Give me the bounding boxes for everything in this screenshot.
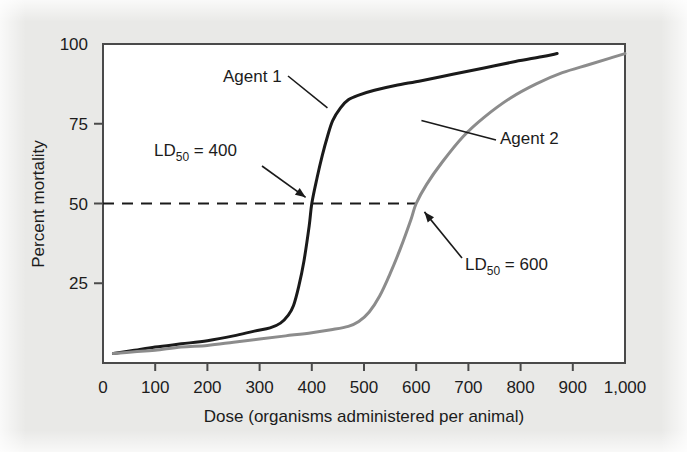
ld50-400-prefix: LD	[154, 141, 176, 160]
ld50-600-suffix: = 600	[500, 255, 548, 274]
y-axis-title: Percent mortality	[29, 140, 48, 268]
agent-1-label: Agent 1	[223, 67, 282, 86]
x-tick-label: 100	[141, 378, 169, 397]
x-tick-label: 900	[559, 378, 587, 397]
y-tick-label: 75	[69, 115, 88, 134]
x-axis-tick-labels: 01002003004005006007008009001,000	[98, 378, 646, 397]
x-tick-label: 500	[350, 378, 378, 397]
y-axis-ticks	[94, 124, 103, 284]
x-tick-label: 200	[193, 378, 221, 397]
y-tick-label: 25	[69, 274, 88, 293]
y-axis-tick-labels: 255075100	[60, 35, 88, 293]
x-tick-label: 1,000	[604, 378, 647, 397]
x-tick-label: 0	[98, 378, 107, 397]
x-tick-label: 600	[402, 378, 430, 397]
agent-2-label: Agent 2	[500, 129, 559, 148]
y-tick-label: 50	[69, 195, 88, 214]
ld50-400-subscript: 50	[176, 150, 190, 164]
ld50-600-prefix: LD	[465, 255, 487, 274]
x-tick-label: 700	[454, 378, 482, 397]
y-tick-label: 100	[60, 35, 88, 54]
dose-response-chart: 01002003004005006007008009001,000 255075…	[0, 0, 687, 452]
x-tick-label: 400	[298, 378, 326, 397]
figure-container: 01002003004005006007008009001,000 255075…	[0, 0, 687, 452]
x-axis-ticks	[155, 363, 573, 371]
ld50-400-suffix: = 400	[189, 141, 237, 160]
x-tick-label: 800	[506, 378, 534, 397]
x-axis-title: Dose (organisms administered per animal)	[204, 407, 524, 426]
x-tick-label: 300	[245, 378, 273, 397]
ld50-600-subscript: 50	[487, 264, 501, 278]
